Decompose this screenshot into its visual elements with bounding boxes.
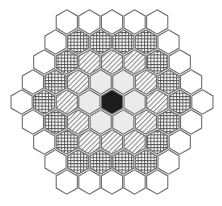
hex-cell-crosshatch	[158, 70, 179, 94]
hex-cell-crosshatch	[45, 110, 66, 134]
hex-cell-crosshatch	[147, 50, 168, 74]
hex-cell-white	[158, 30, 179, 54]
hex-cell-light-gray	[113, 70, 134, 94]
hex-cell-crosshatch	[147, 130, 168, 154]
hex-cell-crosshatch	[68, 150, 89, 174]
hex-cell-white	[79, 170, 100, 194]
hex-cell-white	[34, 130, 55, 154]
hex-cell-white	[181, 70, 202, 94]
hex-cell-white	[45, 30, 66, 54]
hex-cell-crosshatch	[135, 30, 156, 54]
hex-cell-white	[79, 10, 100, 34]
hex-cell-diagonal-hatch	[68, 110, 89, 134]
hex-cell-white	[192, 90, 213, 114]
hex-cell-white	[124, 170, 145, 194]
hex-cell-white	[22, 70, 43, 94]
hex-cell-diagonal-hatch	[68, 70, 89, 94]
hex-lattice-diagram	[0, 0, 222, 206]
hex-cell-white	[34, 50, 55, 74]
hex-cell-crosshatch	[56, 50, 77, 74]
hex-cell-white	[56, 170, 77, 194]
hex-cell-diagonal-hatch	[135, 70, 156, 94]
hex-cell-white	[147, 10, 168, 34]
hex-cell-diagonal-hatch	[56, 90, 77, 114]
hex-cell-light-gray	[90, 70, 111, 94]
hex-cell-light-gray	[113, 110, 134, 134]
hex-cell-light-gray	[124, 90, 145, 114]
hex-cell-diagonal-hatch	[79, 50, 100, 74]
hex-cell-diagonal-hatch	[79, 130, 100, 154]
hex-cell-white	[169, 130, 190, 154]
hex-cell-diagonal-hatch	[124, 130, 145, 154]
hex-cell-crosshatch	[34, 90, 55, 114]
hex-cell-white	[101, 170, 122, 194]
hex-cell-crosshatch	[135, 150, 156, 174]
hex-cell-diagonal-hatch	[124, 50, 145, 74]
hex-cell-crosshatch	[113, 150, 134, 174]
hex-cell-light-gray	[79, 90, 100, 114]
hex-cell-white	[124, 10, 145, 34]
hex-cell-crosshatch	[158, 110, 179, 134]
hex-cell-diagonal-hatch	[101, 130, 122, 154]
hex-cell-crosshatch	[113, 30, 134, 54]
hex-cell-white	[147, 170, 168, 194]
hex-cell-diagonal-hatch	[147, 90, 168, 114]
hex-cell-diagonal-hatch	[101, 50, 122, 74]
hex-cell-crosshatch	[68, 30, 89, 54]
hex-cell-diagonal-hatch	[135, 110, 156, 134]
hex-cell-white	[158, 150, 179, 174]
hex-cell-black	[101, 90, 122, 114]
hex-cell-white	[11, 90, 32, 114]
hex-cell-crosshatch	[169, 90, 190, 114]
hex-cell-white	[56, 10, 77, 34]
hex-cell-crosshatch	[90, 30, 111, 54]
hex-cell-white	[101, 10, 122, 34]
hex-cell-white	[181, 110, 202, 134]
hex-cell-light-gray	[90, 110, 111, 134]
hex-cell-crosshatch	[45, 70, 66, 94]
hex-cell-white	[45, 150, 66, 174]
hex-cell-white	[22, 110, 43, 134]
hex-cell-white	[169, 50, 190, 74]
hex-cell-crosshatch	[90, 150, 111, 174]
hex-cell-crosshatch	[56, 130, 77, 154]
hex-cells-group	[11, 10, 213, 194]
